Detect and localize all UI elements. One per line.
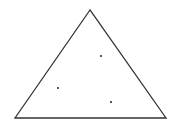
- interior-point: [110, 101, 112, 103]
- diagram-canvas: [0, 0, 177, 129]
- interior-point: [57, 87, 59, 89]
- interior-point: [100, 55, 102, 57]
- triangle: [15, 10, 166, 118]
